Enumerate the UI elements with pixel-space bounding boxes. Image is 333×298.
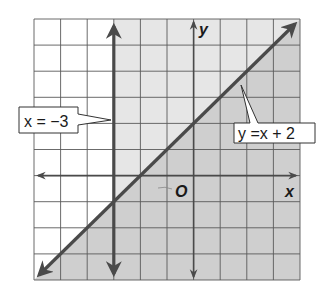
callout-x-equals-neg3: x = −3 [19,107,111,133]
callout-y-equals-x-plus-2-text: y =x + 2 [238,125,295,142]
callout-x-equals-neg3-text: x = −3 [24,113,69,130]
origin-label: O [175,183,188,200]
coordinate-graph: y x O x = −3 y =x + 2 [0,0,333,298]
x-axis-label: x [284,183,295,200]
y-axis-label: y [198,21,209,38]
